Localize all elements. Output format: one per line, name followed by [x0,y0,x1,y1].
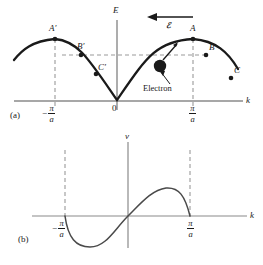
band-structure-figure: E ℰ A′ B′ C′ A B C Electron 0 k − π a π … [0,0,263,265]
electric-field-label: ℰ [166,21,171,30]
panel-b-plot [0,130,263,265]
tick-numerator-right-a: π [189,104,195,113]
panel-a-plot [0,0,263,135]
tick-minus-sign-left-b: − [52,224,57,234]
y-axis-label-energy: E [113,6,119,15]
panel-a-energy-vs-k: E ℰ A′ B′ C′ A B C Electron 0 k − π a π … [0,0,263,135]
point-A-marker [191,37,196,42]
electron-label: Electron [143,84,172,93]
tick-denominator-left-a: a [48,115,54,124]
tick-numerator-left-a: π [48,104,54,113]
point-label-B-prime: B′ [77,42,84,51]
y-axis-label-velocity: v [125,132,129,141]
tick-numerator-right-b: π [187,219,193,228]
point-label-A: A [190,24,196,33]
tick-fraction-left-b: π a [58,219,65,238]
tick-label-right-edge-a: π a [189,104,196,123]
tick-fraction-left-a: π a [48,104,55,123]
panel-b-velocity-vs-k: v k − π a π a (b) [0,130,263,265]
x-axis-label-k-a: k [246,96,250,105]
tick-denominator-left-b: a [58,230,64,239]
tick-numerator-left-b: π [58,219,64,228]
tick-denominator-right-a: a [189,115,195,124]
point-B-prime-marker [79,53,84,58]
panel-tag-a: (a) [10,110,20,120]
point-C-marker [229,76,234,81]
energy-band-curve [14,39,238,100]
origin-label-a: 0 [112,104,117,113]
tick-label-right-edge-b: π a [187,219,194,238]
tick-denominator-right-b: a [187,230,193,239]
point-label-A-prime: A′ [49,24,56,33]
tick-label-left-edge-b: − π a [52,219,65,238]
panel-tag-b: (b) [18,234,29,244]
tick-label-left-edge-a: − π a [42,104,55,123]
point-label-B: B [209,43,215,52]
field-arrow-head [147,13,157,21]
tick-fraction-right-b: π a [187,219,194,238]
x-axis-label-k-b: k [250,211,254,220]
electron-leader-arrowhead [159,70,165,76]
point-C-prime-marker [94,72,99,77]
tick-fraction-right-a: π a [189,104,196,123]
point-A-prime-marker [53,37,58,42]
point-B-marker [204,53,209,58]
point-label-C-prime: C′ [98,63,106,72]
tick-minus-sign-left-a: − [42,109,47,119]
point-label-C: C [234,66,240,75]
